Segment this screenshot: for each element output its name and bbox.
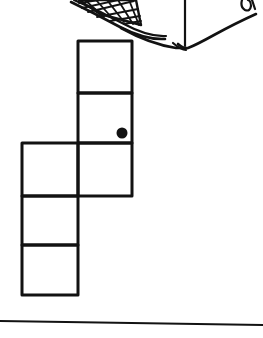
- hand-drawn-figure: [0, 0, 263, 338]
- square-right-bottom: [78, 143, 132, 196]
- right-curl-mark: [241, 0, 255, 11]
- ground-line: [0, 321, 263, 325]
- square-left-middle: [22, 196, 78, 245]
- square-grid-net: [22, 41, 132, 295]
- curl-loop: [241, 0, 251, 11]
- black-dot-marker: [117, 128, 128, 139]
- square-left-top: [22, 143, 78, 196]
- crosshatch-mesh-panel: [79, 0, 141, 25]
- figure-canvas: [0, 0, 263, 338]
- curl-tail: [252, 0, 255, 9]
- square-left-bottom: [22, 245, 78, 295]
- square-right-top: [78, 41, 132, 93]
- basket-v-bottom: [178, 14, 256, 48]
